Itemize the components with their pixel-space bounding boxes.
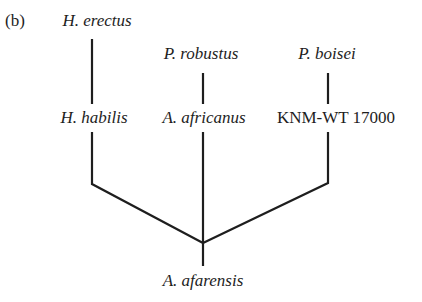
branch-knmwt-to-node bbox=[203, 132, 328, 243]
taxon-knm-wt-17000: KNM-WT 17000 bbox=[277, 108, 395, 128]
branch-habilis-to-node bbox=[92, 132, 203, 243]
taxon-h-erectus: H. erectus bbox=[62, 11, 131, 31]
taxon-h-habilis: H. habilis bbox=[60, 108, 127, 128]
taxon-p-boisei: P. boisei bbox=[298, 44, 355, 64]
phylogeny-diagram: (b) H. erectus P. robustus P. boisei H. … bbox=[0, 0, 422, 302]
taxon-p-robustus: P. robustus bbox=[164, 44, 239, 64]
taxon-a-africanus: A. africanus bbox=[162, 108, 245, 128]
taxon-a-afarensis: A. afarensis bbox=[163, 271, 244, 291]
